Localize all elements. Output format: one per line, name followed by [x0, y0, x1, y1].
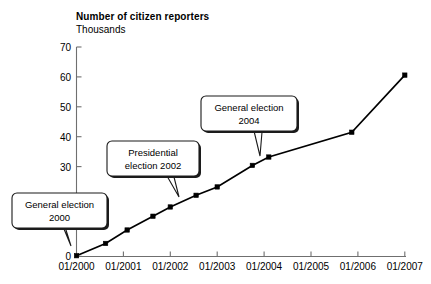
x-tick-label-1: 01/2001	[105, 261, 142, 272]
y-tick-label-60: 60	[60, 72, 72, 83]
data-point-marker	[215, 185, 219, 189]
data-point-marker	[194, 193, 198, 197]
x-tick-label-7: 01/2007	[387, 261, 424, 272]
annotation-2-line2: 2004	[238, 115, 259, 126]
data-point-marker	[250, 163, 254, 167]
annotation-general-election-2000[interactable]: General election 2000	[12, 193, 109, 246]
annotation-2-line1: General election	[214, 102, 283, 113]
annotation-presidential-election-2002[interactable]: Presidential election 2002	[107, 141, 201, 197]
data-point-marker	[267, 155, 271, 159]
x-tick-label-3: 01/2003	[199, 261, 236, 272]
annotation-general-election-2004[interactable]: General election 2004	[201, 96, 299, 156]
x-axis-ticks	[77, 252, 405, 257]
x-tick-label-2: 01/2002	[152, 261, 189, 272]
data-point-marker	[125, 228, 129, 232]
annotation-1-line2: election 2002	[125, 160, 182, 171]
chart-plot-area: 70 60 50 40 30 20 10 0 01/2000 01/2001 0…	[0, 0, 431, 284]
x-tick-label-0: 01/2000	[58, 261, 95, 272]
data-point-marker	[403, 73, 407, 77]
data-point-marker	[168, 205, 172, 209]
y-tick-label-30: 30	[60, 162, 72, 173]
data-point-marker	[151, 214, 155, 218]
chart-container: Number of citizen reporters Thousands 70…	[0, 0, 431, 284]
data-point-marker	[350, 130, 354, 134]
annotation-0-line2: 2000	[49, 212, 70, 223]
data-point-marker	[103, 241, 107, 245]
data-point-marker	[74, 254, 78, 258]
annotation-0-line1: General election	[25, 199, 94, 210]
x-tick-label-5: 01/2005	[293, 261, 330, 272]
x-tick-label-4: 01/2004	[246, 261, 283, 272]
y-tick-label-70: 70	[60, 42, 72, 53]
y-tick-label-50: 50	[60, 102, 72, 113]
y-tick-label-40: 40	[60, 132, 72, 143]
x-tick-label-6: 01/2006	[340, 261, 377, 272]
annotation-1-line1: Presidential	[128, 147, 178, 158]
